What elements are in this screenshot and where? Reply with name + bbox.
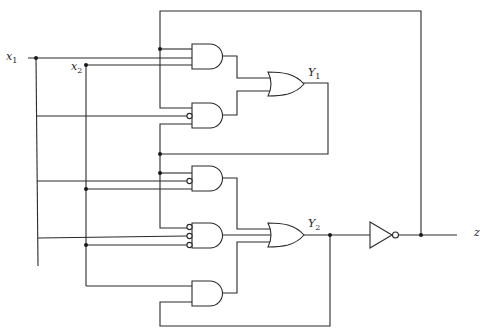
and-gate-3: [192, 166, 222, 191]
wire-x1-vertical: [36, 58, 38, 266]
label-x1: x1: [6, 50, 17, 65]
not-gate: [370, 222, 392, 248]
label-y2: Y2: [308, 217, 320, 232]
junction-dot: [84, 187, 88, 191]
and-gate-4: [192, 223, 222, 248]
logic-circuit-diagram: x1 x2 Y1 Y2 z: [0, 0, 485, 335]
wire-y2-feedback: [160, 235, 330, 326]
inversion-bubble: [393, 232, 399, 238]
junction-dot: [158, 47, 162, 51]
junction-dot: [419, 233, 423, 237]
label-z: z: [474, 226, 480, 239]
junction-dot: [84, 243, 88, 247]
wire-and1-or1: [222, 56, 272, 78]
inversion-bubble: [187, 224, 192, 229]
wire-and5-or2: [222, 242, 272, 293]
wire-y1-rail: [160, 124, 192, 228]
or-gate-2: [268, 223, 304, 247]
wire-and2-or1: [222, 91, 272, 115]
inversion-bubble: [187, 178, 192, 183]
label-y1: Y1: [308, 66, 320, 81]
junction-dot: [34, 56, 38, 60]
or-gate-1: [268, 72, 304, 96]
and-gate-1: [192, 44, 222, 69]
wire-x1-and4: [38, 236, 187, 238]
inversion-bubble: [187, 242, 192, 247]
junction-dot: [84, 63, 88, 67]
inversion-bubble: [187, 233, 192, 238]
wire-and3-or2: [222, 178, 272, 229]
junction-dot: [328, 233, 332, 237]
junction-dot: [158, 152, 162, 156]
circuit-schematic: [0, 0, 485, 335]
and-gate-5: [192, 281, 222, 306]
inversion-bubble: [187, 113, 192, 118]
label-x2: x2: [71, 60, 82, 75]
wire-y1-feedback: [160, 83, 328, 154]
junction-dot: [158, 171, 162, 175]
and-gate-2: [192, 103, 222, 128]
